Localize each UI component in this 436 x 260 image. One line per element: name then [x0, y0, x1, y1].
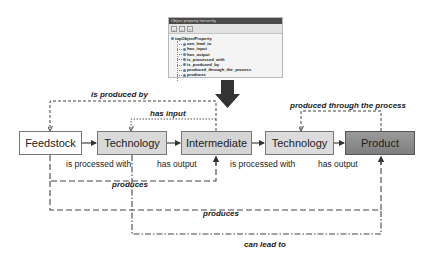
node-intermediate: Intermediate: [181, 131, 252, 155]
label-is-produced-by: is produced by: [91, 90, 148, 99]
label-is-processed-with-2: is processed with: [230, 159, 295, 169]
connector-lines: [0, 0, 436, 260]
label-is-processed-with-1: is processed with: [66, 159, 131, 169]
node-technology-1: Technology: [97, 131, 167, 155]
label-produces-inner: produces: [112, 180, 148, 189]
label-has-input: has input: [150, 109, 186, 118]
label-can-lead-to: can lead to: [244, 240, 286, 249]
big-down-arrow-icon: [215, 80, 240, 108]
node-feedstock: Feedstock: [19, 131, 82, 155]
node-technology-2: Technology: [265, 131, 334, 155]
label-has-output-1: has output: [157, 159, 197, 169]
has-input-line: [131, 119, 216, 130]
produced-through-process-line: [301, 111, 381, 131]
label-has-output-2: has output: [318, 159, 358, 169]
node-product: Product: [345, 131, 415, 155]
label-produced-through-the-process: produced through the process: [290, 101, 406, 110]
label-produces-outer: produces: [203, 209, 239, 218]
is-produced-by-line: [50, 101, 216, 131]
